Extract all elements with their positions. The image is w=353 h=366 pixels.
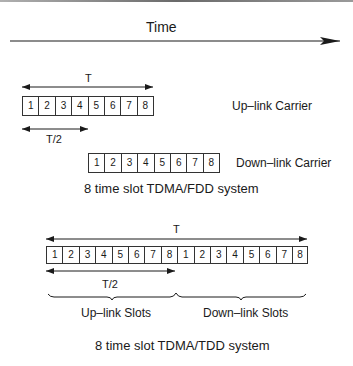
slot: 2 (194, 246, 211, 264)
slot: 7 (144, 246, 161, 264)
slot: 4 (137, 153, 154, 173)
tdd-caption: 8 time slot TDMA/TDD system (95, 338, 270, 353)
fdd-period-label: T (85, 72, 92, 84)
slot: 4 (95, 246, 112, 264)
slot: 1 (88, 153, 105, 173)
slot: 8 (203, 153, 220, 173)
slot: 5 (243, 246, 260, 264)
tdd-period-label: T (173, 223, 180, 235)
slot: 6 (128, 246, 145, 264)
slot: 7 (120, 96, 137, 116)
slot: 3 (79, 246, 96, 264)
slot: 8 (292, 246, 308, 264)
slot: 1 (46, 246, 63, 264)
slot: 6 (104, 96, 121, 116)
uplink-slots-label: Up–link Slots (81, 306, 151, 320)
slot: 3 (55, 96, 72, 116)
downlink-slots-label: Down–link Slots (203, 306, 288, 320)
slot: 4 (226, 246, 243, 264)
downlink-carrier-label: Down–link Carrier (236, 156, 331, 170)
slot: 6 (170, 153, 187, 173)
slot: 3 (121, 153, 138, 173)
slot: 7 (276, 246, 293, 264)
slot: 5 (88, 96, 105, 116)
slot: 1 (22, 96, 39, 116)
tdd-brace (48, 293, 306, 300)
slot: 2 (62, 246, 79, 264)
slot: 6 (259, 246, 276, 264)
slot: 5 (112, 246, 129, 264)
slot: 1 (177, 246, 194, 264)
fdd-half-period-label: T/2 (46, 133, 62, 145)
slot: 3 (210, 246, 227, 264)
slot: 2 (104, 153, 121, 173)
slot: 2 (38, 96, 55, 116)
slot: 8 (161, 246, 178, 264)
slot: 4 (71, 96, 88, 116)
fdd-caption: 8 time slot TDMA/FDD system (84, 181, 259, 196)
slot: 8 (137, 96, 154, 116)
tdd-half-period-label: T/2 (102, 278, 118, 290)
slot: 7 (186, 153, 203, 173)
uplink-carrier-label: Up–link Carrier (232, 99, 312, 113)
time-label: Time (146, 19, 177, 35)
slot: 5 (154, 153, 171, 173)
